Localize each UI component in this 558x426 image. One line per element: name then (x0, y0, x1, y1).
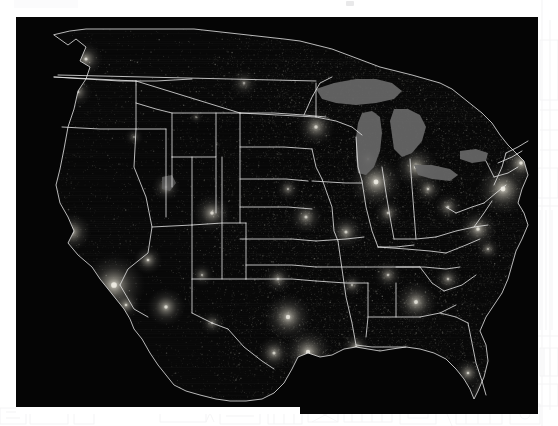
nighttime-lights-map-figure (16, 17, 538, 414)
page-mark (346, 1, 354, 6)
page-header-band (14, 0, 78, 8)
map-bottom-notch (16, 407, 300, 414)
page-root (0, 0, 558, 426)
map-canvas (16, 17, 538, 414)
